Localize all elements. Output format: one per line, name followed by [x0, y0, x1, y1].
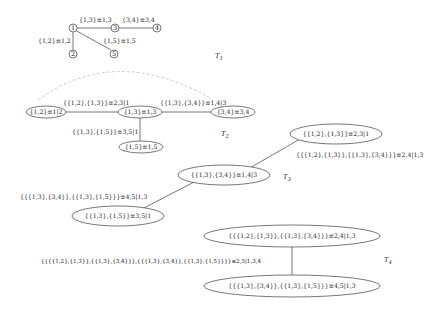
tree-t3: {{1,2},{1,3}}≡2,3|1 {{1,3},{3,4}}≡1,4|3 …	[20, 124, 423, 226]
node-t3-c-label: {{1,3},{1,5}}≡3,5|1	[85, 212, 151, 220]
tree-t4: {{{1,2},{1,3}},{{1,3},{3,4}}}≡2,4|1,3 {{…	[41, 225, 392, 297]
tree-t1: 1 3 4 2 5 {1,3}≡1,3 {3,4}≡3,4 {1,2}≡1,2 …	[38, 16, 223, 61]
node-t3-b-label: {{1,3},{3,4}}≡1,4|3	[191, 171, 257, 179]
edge-label-t2-13-15: {{1,3},{1,5}}≡3,5|1	[72, 128, 138, 136]
node-5-label: 5	[112, 50, 116, 58]
node-t2-15-label: {1,5}≡1,5	[125, 143, 158, 151]
node-t4-b-label: {{{1,3},{3,4}},{{1,3},{1,5}}}≡4,5|1,3	[228, 282, 355, 290]
edge-label-3-4: {3,4}≡3,4	[122, 16, 155, 24]
edge-label-t2-13-34: {{1,3},{3,4}}≡1,4|3	[160, 99, 226, 107]
tree-label-t4: T4	[384, 256, 392, 265]
edge-label-1-5: {1,5}≡1,5	[103, 37, 136, 45]
dashed-arc	[38, 71, 210, 100]
edge-label-t3-bottom: {{{1,3},{3,4}},{{1,3},{1,5}}}≡4,5|1,3	[20, 193, 147, 201]
edge-label-1-3: {1,3}≡1,3	[79, 16, 112, 24]
node-t4-a-label: {{{1,2},{1,3}},{{1,3},{3,4}}}≡2,4|1,3	[228, 232, 355, 240]
edge-label-t4: {{{{1,2},{1,3}},{{1,3},{3,4}}},{{{1,3},{…	[41, 258, 262, 265]
edge-t3-top	[248, 139, 300, 169]
node-t2-12-label: {1,2}≡1|2	[30, 108, 63, 116]
junction-tree-diagram: 1 3 4 2 5 {1,3}≡1,3 {3,4}≡3,4 {1,2}≡1,2 …	[0, 0, 440, 313]
edge-label-t2-12-13: {{1,2},{1,3}}≡2,3|1	[63, 99, 129, 107]
edge-t3-bottom	[140, 180, 198, 210]
node-4-label: 4	[155, 24, 159, 32]
node-1-label: 1	[71, 24, 75, 32]
edge-label-1-2: {1,2}≡1,2	[38, 37, 71, 45]
tree-t2: {1,2}≡1|2 {1,3}≡1,3 {3,4}≡3,4 {1,5}≡1,5 …	[26, 99, 255, 153]
node-t2-34-label: {3,4}≡3,4	[217, 108, 250, 116]
node-t3-a-label: {{1,2},{1,3}}≡2,3|1	[303, 130, 369, 138]
edge-label-t3-top: {{{1,2},{1,3}},{{1,3},{3,4}}}≡2,4|1,3	[296, 151, 423, 159]
tree-label-t1: T1	[215, 52, 223, 61]
node-2-label: 2	[71, 50, 75, 58]
tree-label-t3: T3	[283, 173, 291, 182]
node-3-label: 3	[113, 24, 117, 32]
tree-label-t2: T2	[221, 130, 229, 139]
node-t2-13-label: {1,3}≡1,3	[124, 108, 157, 116]
